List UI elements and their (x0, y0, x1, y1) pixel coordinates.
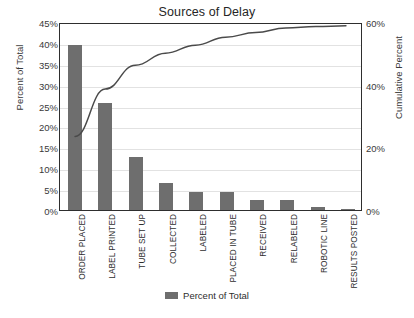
x-axis-tick-label: COLLECTED (169, 214, 178, 264)
cumulative-line-layer (60, 24, 361, 210)
y-axis-left-tick: 25% (10, 101, 58, 112)
y-axis-left-tick: 45% (10, 18, 58, 29)
x-axis-tick-label: ROBOTIC LINE (320, 214, 329, 273)
x-axis-tick-label: RELABELED (290, 214, 299, 263)
y-axis-left-tick: 40% (10, 38, 58, 49)
x-axis-tick-label: LABEL PRINTED (108, 214, 117, 279)
y-axis-left-tick: 10% (10, 164, 58, 175)
x-axis-tick-label: ORDER PLACED (78, 214, 87, 280)
plot-area (59, 23, 362, 211)
legend-label-percent-of-total: Percent of Total (183, 290, 249, 301)
pareto-chart: Sources of Delay Percent of Total Cumula… (0, 0, 414, 318)
x-axis-tick-label: PLACED IN TUBE (229, 214, 238, 283)
y-axis-left-tick: 30% (10, 80, 58, 91)
x-axis-tick-label: RESULTS POSTED (350, 214, 359, 289)
y-axis-right-tick: 0% (366, 206, 410, 217)
y-axis-left-tick: 20% (10, 122, 58, 133)
y-axis-left-tick: 5% (10, 185, 58, 196)
x-axis-tick-label: LABELED (199, 214, 208, 252)
x-axis-tick-label: TUBE SET UP (138, 214, 147, 269)
y-axis-left-tick: 35% (10, 59, 58, 70)
chart-title: Sources of Delay (0, 5, 414, 19)
chart-legend: Percent of Total (0, 290, 414, 301)
y-axis-left-tick: 15% (10, 143, 58, 154)
cumulative-percent-line (75, 26, 346, 137)
y-axis-right-tick: 60% (366, 18, 410, 29)
y-axis-right-tick: 40% (366, 80, 410, 91)
legend-swatch-percent-of-total (165, 292, 178, 299)
y-axis-right-title: Cumulative Percent (393, 13, 404, 143)
y-axis-left-tick: 0% (10, 206, 58, 217)
y-axis-right-tick: 20% (366, 143, 410, 154)
x-axis-tick-label: RECEIVED (259, 214, 268, 257)
